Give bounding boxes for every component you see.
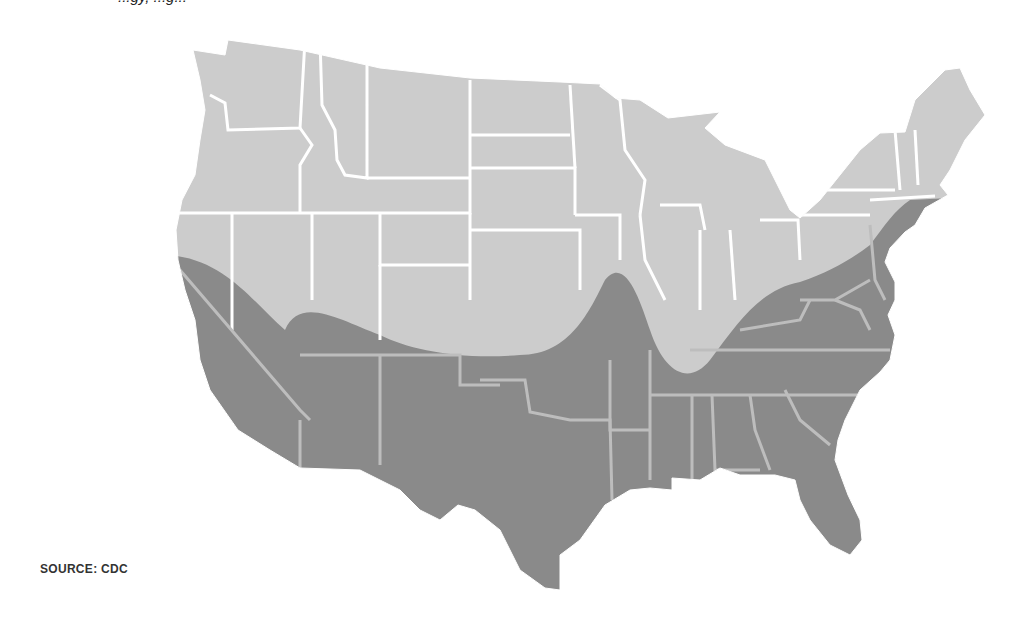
source-label: SOURCE: CDC bbox=[40, 562, 128, 576]
us-map bbox=[0, 0, 1011, 639]
